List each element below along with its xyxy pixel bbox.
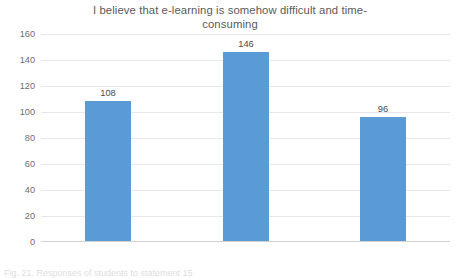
y-axis-tick-label: 60 <box>5 160 35 169</box>
y-axis-tick-label: 40 <box>5 186 35 195</box>
y-axis-tick-label: 80 <box>5 134 35 143</box>
y-axis-tick-label: 20 <box>5 212 35 221</box>
chart-title: I believe that e-learning is somehow dif… <box>55 3 405 31</box>
y-axis-tick-label: 0 <box>5 238 35 247</box>
bar-chart: I believe that e-learning is somehow dif… <box>0 0 463 278</box>
bar-agree[interactable] <box>85 101 131 241</box>
bar-value-neutral: 96 <box>353 104 413 114</box>
y-axis-tick-label: 120 <box>5 82 35 91</box>
plot-area: 108 146 96 Agree Disagree Neutral <box>41 34 450 242</box>
bar-neutral[interactable] <box>360 117 406 241</box>
bar-value-disagree: 146 <box>216 39 276 49</box>
gridline-160 <box>41 34 450 35</box>
y-axis-tick-label: 100 <box>5 108 35 117</box>
figure-caption: Fig. 21. Responses of students to statem… <box>4 268 304 278</box>
y-axis-tick-label: 140 <box>5 56 35 65</box>
x-axis-line <box>41 241 450 242</box>
bar-disagree[interactable] <box>223 52 269 241</box>
bar-value-agree: 108 <box>78 88 138 98</box>
y-axis-tick-label: 160 <box>5 30 35 39</box>
